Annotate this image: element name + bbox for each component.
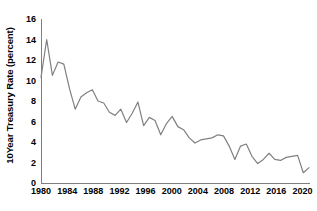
y-tick-label: 4 bbox=[31, 137, 36, 147]
y-axis-title: 10Year Treasury Rate (percent) bbox=[0, 0, 18, 190]
series-line-10year-treasury-rate bbox=[41, 19, 309, 183]
x-tick-label: 2004 bbox=[188, 186, 208, 196]
x-tick-label: 2000 bbox=[162, 186, 182, 196]
x-tick-label: 2016 bbox=[266, 186, 286, 196]
x-tick-label: 1988 bbox=[83, 186, 103, 196]
plot-area bbox=[41, 19, 309, 183]
x-tick-label: 2012 bbox=[240, 186, 260, 196]
x-tick-label: 1984 bbox=[57, 186, 77, 196]
x-tick-label: 2020 bbox=[292, 186, 312, 196]
x-axis-tick-labels: 1980198419881992199620002004200820122016… bbox=[0, 186, 317, 206]
x-axis-line bbox=[41, 183, 310, 184]
treasury-rate-line-chart: 10Year Treasury Rate (percent) 024681012… bbox=[0, 0, 317, 211]
y-axis-title-text: 10Year Treasury Rate (percent) bbox=[4, 27, 15, 163]
y-tick-label: 8 bbox=[31, 96, 36, 106]
x-tick-label: 1980 bbox=[31, 186, 51, 196]
y-tick-label: 10 bbox=[26, 76, 36, 86]
y-axis-tick-labels: 0246810121416 bbox=[18, 0, 38, 211]
x-tick-label: 2008 bbox=[214, 186, 234, 196]
x-tick-label: 1992 bbox=[109, 186, 129, 196]
series-polyline bbox=[41, 40, 309, 173]
y-tick-label: 2 bbox=[31, 158, 36, 168]
y-tick-label: 12 bbox=[26, 55, 36, 65]
y-tick-label: 14 bbox=[26, 35, 36, 45]
x-tick-label: 1996 bbox=[136, 186, 156, 196]
y-tick-label: 16 bbox=[26, 14, 36, 24]
y-tick-label: 6 bbox=[31, 117, 36, 127]
